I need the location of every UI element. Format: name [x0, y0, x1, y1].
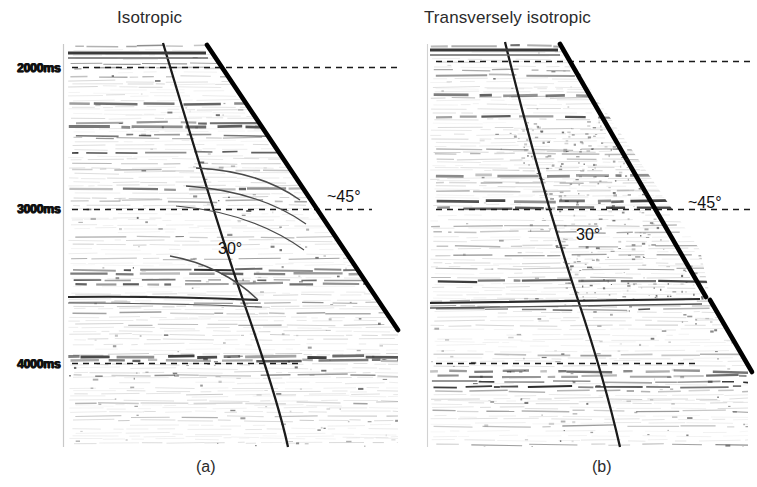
angle-label-45-panel-b: ~45° — [688, 194, 722, 212]
angle-label-30-panel-a: 30° — [218, 240, 242, 258]
angle-label-45-panel-a: ~45° — [327, 188, 361, 206]
subcaption-a: (a) — [196, 458, 216, 476]
fault-plane-panel-b — [505, 42, 620, 447]
steep-dip-boundary-panel-b — [560, 44, 752, 372]
panel-title-transversely-isotropic: Transversely isotropic — [424, 8, 591, 28]
steep-dip-boundary-panel-a — [207, 45, 398, 330]
angle-label-30-panel-b: 30° — [576, 226, 600, 244]
time-tick-label-4000: 4000ms — [16, 357, 61, 373]
time-tick-label-3000: 3000ms — [16, 202, 61, 218]
seismic-canvas — [0, 0, 757, 487]
top-reflector-band-panel-a — [68, 53, 208, 58]
top-reflector-band-panel-b — [430, 50, 560, 55]
time-axis-rule — [64, 44, 428, 447]
time-gridlines — [72, 62, 752, 364]
strong-reflector-panel-a — [68, 297, 262, 307]
seismic-figure: Isotropic Transversely isotropic 2000ms … — [0, 0, 757, 487]
panel-title-isotropic: Isotropic — [117, 8, 182, 28]
diffraction-scatter-panel-b — [510, 122, 704, 301]
seismic-section-transversely-isotropic — [430, 45, 754, 449]
time-tick-label-2000: 2000ms — [16, 61, 61, 77]
subcaption-b: (b) — [592, 458, 612, 476]
flat-reflector-panel-b — [430, 299, 702, 308]
diffraction-arcs-panel-a — [170, 168, 306, 300]
